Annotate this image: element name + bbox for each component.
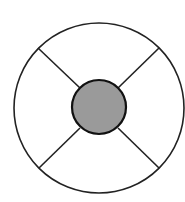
inner-hub-circle xyxy=(72,80,126,134)
ring-diagram xyxy=(0,0,185,202)
